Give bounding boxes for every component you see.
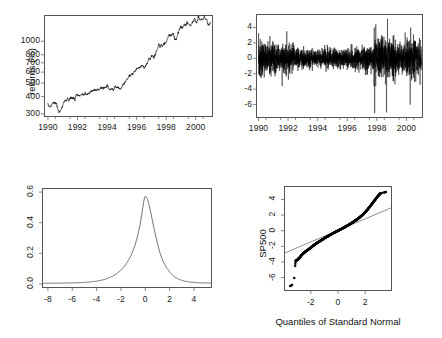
density-tick-marks (32, 188, 216, 298)
returns-tick-marks (246, 14, 428, 128)
qq-axis-title-x: Quantiles of Standard Normal (275, 316, 400, 327)
price-tick-marks (34, 15, 216, 127)
returns-axis-title: returns (%) (26, 37, 37, 107)
figure-root: 3004005006007008001000 19901992199419961… (0, 0, 442, 338)
qq-tick-marks (274, 186, 402, 302)
